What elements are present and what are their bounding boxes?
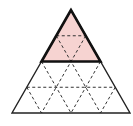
triangle-grid-diagram <box>0 0 133 126</box>
grid-dash-line <box>101 87 116 113</box>
shaded-top-triangle <box>42 10 101 62</box>
grid-dash-line <box>27 87 42 113</box>
triangle-figure <box>0 0 133 126</box>
